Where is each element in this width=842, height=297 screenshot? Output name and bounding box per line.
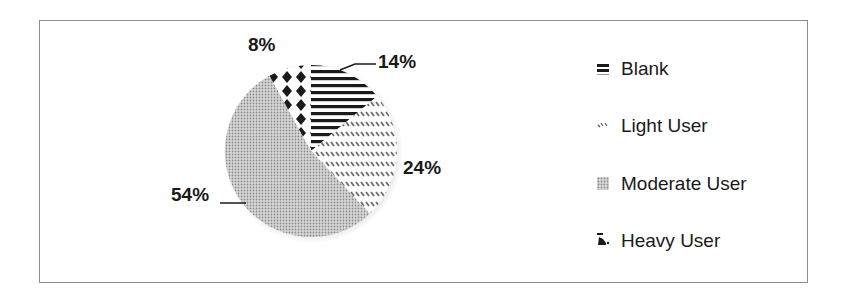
legend-swatch-moderate-user [597,177,609,190]
legend-label: Moderate User [621,173,747,195]
legend-label: Blank [621,58,669,80]
data-label-blank: 14% [378,52,416,71]
legend-swatch-heavy-user [597,233,609,245]
legend-swatch-blank [597,64,609,75]
legend-label: Light User [621,115,708,137]
legend-item-light-user[interactable]: Light User [621,115,708,137]
legend-item-blank[interactable]: Blank [621,58,669,80]
legend-item-heavy-user[interactable]: Heavy User [621,230,720,252]
data-label-moderate-user: 54% [171,185,209,204]
legend-swatch-light-user [598,123,607,127]
data-label-heavy-user: 8% [248,35,275,54]
legend-label: Heavy User [621,230,720,252]
legend-item-moderate-user[interactable]: Moderate User [621,173,747,195]
pie-chart [0,0,842,297]
data-label-light-user: 24% [403,158,441,177]
